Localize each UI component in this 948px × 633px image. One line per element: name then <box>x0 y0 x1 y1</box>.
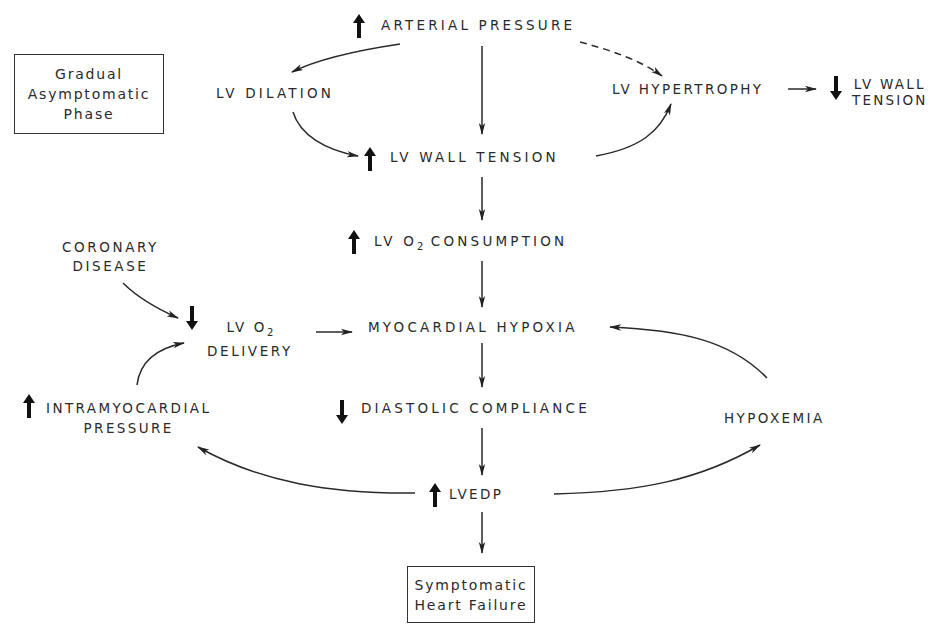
node-arterial-pressure: ARTERIAL PRESSURE <box>381 16 575 34</box>
increase-arrow-icon <box>23 394 35 418</box>
node-myocardial-hypoxia: MYOCARDIAL HYPOXIA <box>368 318 578 336</box>
delivery-line-1: LV O2 <box>207 318 293 342</box>
increase-arrow-icon <box>364 147 376 171</box>
node-lv-o2-consumption: LV O2 CONSUMPTION <box>374 232 567 256</box>
node-coronary-disease: CORONARY DISEASE <box>62 238 159 276</box>
intramyo-line-1: INTRAMYOCARDIAL <box>46 398 211 418</box>
edge-dilation-to-walltension <box>293 112 358 156</box>
decrease-arrow-icon <box>830 76 842 100</box>
gradual-line-1: Gradual <box>15 64 163 84</box>
edge-coronary-to-delivery <box>123 283 178 318</box>
decrease-arrow-icon <box>186 306 198 330</box>
delivery-line-2: DELIVERY <box>207 342 293 361</box>
symptomatic-heart-failure-box: Symptomatic Heart Failure <box>407 566 535 623</box>
node-lv-wall-tension-increased: LV WALL TENSION <box>390 148 559 166</box>
node-lv-hypertrophy: LV HYPERTROPHY <box>612 80 763 98</box>
edge-hypoxemia-to-hypoxia <box>610 327 767 378</box>
increase-arrow-icon <box>429 483 441 507</box>
o2-subscript: 2 <box>267 327 273 338</box>
node-intramyocardial-pressure: INTRAMYOCARDIAL PRESSURE <box>46 398 211 438</box>
node-lv-wall-tension-decreased: LV WALL TENSION <box>852 76 928 108</box>
edge-walltension-to-hypertrophy <box>596 104 671 156</box>
intramyo-line-2: PRESSURE <box>46 418 211 438</box>
node-diastolic-compliance: DIASTOLIC COMPLIANCE <box>361 399 590 417</box>
node-lv-dilation: LV DILATION <box>216 84 334 102</box>
decrease-arrow-icon <box>336 400 348 424</box>
o2-consumption-prefix: LV O <box>374 233 417 249</box>
node-hypoxemia: HYPOXEMIA <box>724 409 825 427</box>
edge-arterial-to-hypertrophy <box>580 42 662 76</box>
edge-arterial-to-dilation <box>292 44 400 72</box>
symptomatic-line-1: Symptomatic <box>408 575 534 595</box>
increase-arrow-icon <box>353 14 365 38</box>
edge-lvedp-to-hypoxemia <box>554 445 760 494</box>
gradual-line-2: Asymptomatic <box>15 84 163 104</box>
coronary-line-2: DISEASE <box>62 257 159 276</box>
increase-arrow-icon <box>348 230 360 254</box>
dec-walltension-line-2: TENSION <box>852 92 928 108</box>
symptomatic-line-2: Heart Failure <box>408 595 534 615</box>
coronary-line-1: CORONARY <box>62 238 159 257</box>
gradual-line-3: Phase <box>15 104 163 124</box>
dec-walltension-line-1: LV WALL <box>852 76 928 92</box>
edge-intramyo-to-delivery <box>137 343 184 385</box>
edge-lvedp-to-intramyo <box>198 447 415 493</box>
gradual-asymptomatic-phase-box: Gradual Asymptomatic Phase <box>14 54 164 134</box>
node-lvedp: LVEDP <box>449 485 503 503</box>
o2-delivery-prefix: LV O <box>226 319 267 335</box>
o2-consumption-suffix: CONSUMPTION <box>423 233 567 249</box>
node-lv-o2-delivery: LV O2 DELIVERY <box>207 318 293 361</box>
